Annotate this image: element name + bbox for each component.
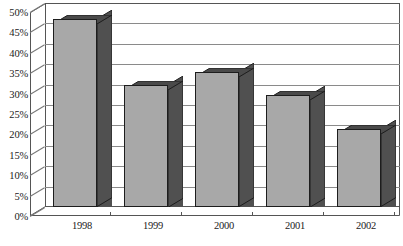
y-axis-tick-label: 40% [9,47,28,58]
bar-column [266,95,310,207]
bar-chart: 50%45%40%35%30%25%20%15%10%5%0% 19981999… [0,0,403,246]
x-axis-tickmark [181,212,182,216]
y-axis-tick-label: 35% [9,68,28,79]
x-axis-tick-label: 2000 [214,220,234,231]
bar-column [337,129,381,207]
bar-side-face [97,19,112,207]
bar-side-face [310,95,325,207]
x-axis-tick-label: 1999 [143,220,163,231]
bar-top-face [53,10,112,19]
bar-front-face [337,129,381,207]
y-axis-tick-label: 25% [9,109,28,120]
y-axis-tick-label: 20% [9,129,28,140]
x-axis: 19981999200020012002 [30,218,400,238]
bar-front-face [266,95,310,207]
y-axis-tick-label: 5% [14,190,28,201]
x-axis-tickmark [394,212,395,216]
bar-side-face [381,129,396,207]
y-axis-tick-label: 15% [9,149,28,160]
bar-top-face [195,63,254,72]
bar-top-face [337,120,396,129]
bar-top-face [266,86,325,95]
y-axis-tick-label: 45% [9,27,28,38]
x-axis-tickmark [252,212,253,216]
bar-front-face [53,19,97,207]
bar-side-face [239,72,254,207]
bar-column [53,19,97,207]
y-axis-tick-label: 0% [14,211,28,222]
plot-area [30,3,400,216]
x-axis-tick-label: 2002 [356,220,376,231]
x-axis-tickmark [323,212,324,216]
bar-top-face [124,76,183,85]
y-axis: 50%45%40%35%30%25%20%15%10%5%0% [0,0,30,246]
y-axis-tick-label: 10% [9,170,28,181]
bar-column [124,85,168,207]
bar-front-face [195,72,239,207]
bar-front-face [124,85,168,207]
y-axis-tick-label: 30% [9,88,28,99]
bar-column [195,72,239,207]
bars [30,3,400,216]
x-axis-tick-label: 2001 [285,220,305,231]
x-axis-tick-label: 1998 [72,220,92,231]
y-axis-tick-label: 50% [9,7,28,18]
bar-side-face [168,85,183,207]
x-axis-tickmark [110,212,111,216]
